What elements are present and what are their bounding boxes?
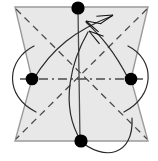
graph-canvas bbox=[0, 0, 158, 161]
figure-root bbox=[0, 0, 158, 161]
node-top[interactable] bbox=[71, 1, 84, 14]
node-bottom[interactable] bbox=[74, 134, 87, 147]
node-right[interactable] bbox=[125, 73, 138, 86]
node-left[interactable] bbox=[26, 73, 39, 86]
